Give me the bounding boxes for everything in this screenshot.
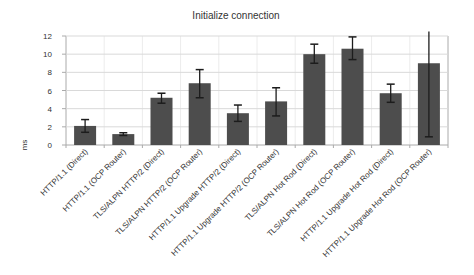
bar (342, 49, 364, 145)
x-category-label: HTTP/1.1 (OCP Router) (61, 147, 128, 214)
chart-image: Initialize connection ms 024681012HTTP/1… (0, 0, 474, 275)
y-axis-label: ms (20, 140, 29, 151)
y-tick-label: 0 (48, 141, 53, 150)
y-tick-label: 4 (48, 105, 53, 114)
y-tick-label: 12 (43, 32, 52, 41)
plot-area: 024681012HTTP/1.1 (Direct)HTTP/1.1 (OCP … (39, 31, 448, 259)
y-tick-label: 10 (43, 50, 52, 59)
bar (151, 98, 173, 145)
y-tick-label: 6 (48, 87, 53, 96)
y-tick-label: 8 (48, 68, 53, 77)
bar-chart: Initialize connection ms 024681012HTTP/1… (0, 0, 474, 275)
chart-title: Initialize connection (192, 10, 279, 21)
x-category-label: TLS/ALPN Hot Rod (Direct) (243, 147, 319, 223)
y-tick-label: 2 (48, 123, 53, 132)
bar (303, 54, 325, 145)
x-category-label: TLS/ALPN HTTP/2 (Direct) (92, 147, 166, 221)
